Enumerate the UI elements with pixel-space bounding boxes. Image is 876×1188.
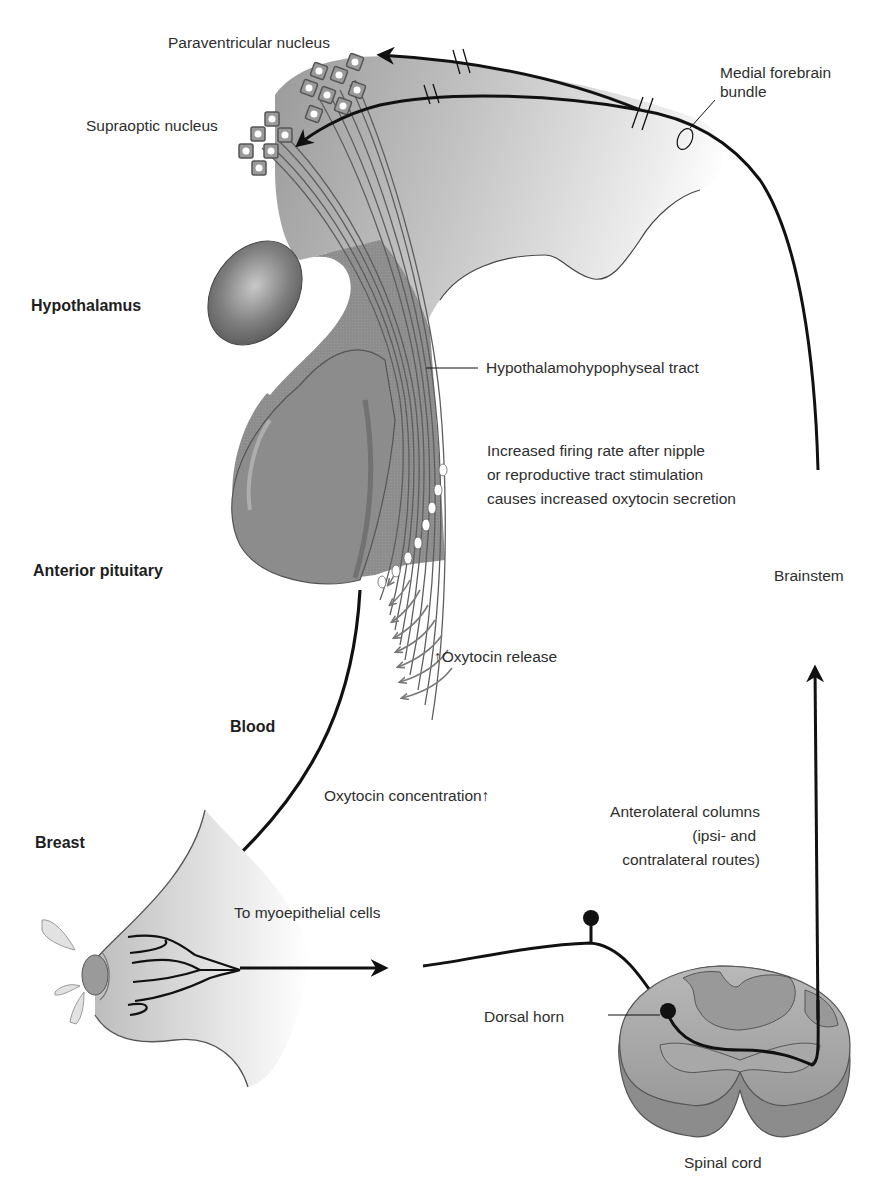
label-breast: Breast — [35, 833, 85, 852]
annotation-oxytocin-concentration: Oxytocin concentration↑ — [324, 786, 489, 805]
nipple — [82, 955, 108, 995]
label-anterior-pituitary: Anterior pituitary — [33, 561, 163, 580]
annotation-myoepithelial-cells: To myoepithelial cells — [234, 903, 380, 922]
oxytocin-reflex-diagram — [0, 0, 876, 1188]
anterolateral-ascending-arrow — [815, 668, 818, 1020]
annotation-firing-line2: or reproductive tract stimulation — [487, 465, 703, 484]
label-blood: Blood — [230, 717, 275, 736]
annotation-anterolateral-line1: Anterolateral columns — [560, 802, 760, 821]
afferent-nerve — [423, 922, 675, 1008]
annotation-anterolateral-line2: (ipsi- and — [560, 826, 756, 845]
breast — [42, 810, 385, 1087]
annotation-firing-line3: causes increased oxytocin secretion — [487, 489, 736, 508]
label-medial-forebrain-bundle-1: Medial forebrain — [720, 63, 831, 82]
label-hypothalamohypophyseal-tract: Hypothalamohypophyseal tract — [486, 358, 699, 377]
label-spinal-cord: Spinal cord — [684, 1153, 762, 1172]
dorsal-root-ganglion-icon — [583, 910, 599, 926]
annotation-firing-line1: Increased firing rate after nipple — [487, 441, 705, 460]
annotation-anterolateral-line3: contralateral routes) — [560, 850, 760, 869]
label-brainstem: Brainstem — [774, 566, 844, 585]
label-medial-forebrain-bundle-2: bundle — [720, 82, 767, 101]
label-supraoptic-nucleus: Supraoptic nucleus — [86, 116, 218, 135]
annotation-oxytocin-release: ↑Oxytocin release — [434, 647, 557, 666]
label-dorsal-horn: Dorsal horn — [484, 1007, 564, 1026]
label-hypothalamus: Hypothalamus — [31, 296, 141, 315]
label-paraventricular-nucleus: Paraventricular nucleus — [168, 33, 330, 52]
